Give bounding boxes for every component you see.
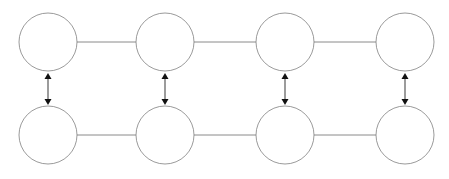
double-arrow-v-c4 bbox=[402, 73, 409, 105]
node-circle-n-r1-c2[interactable] bbox=[136, 13, 194, 71]
double-arrow-v-c3 bbox=[282, 73, 289, 105]
node-circle-n-r2-c1[interactable] bbox=[19, 106, 77, 164]
node-layer bbox=[19, 13, 434, 164]
arrow-head-down-icon bbox=[282, 99, 289, 105]
arrow-head-up-icon bbox=[162, 73, 169, 79]
arrow-head-down-icon bbox=[162, 99, 169, 105]
arrow-head-up-icon bbox=[402, 73, 409, 79]
node-circle-n-r1-c4[interactable] bbox=[376, 13, 434, 71]
node-circle-n-r2-c3[interactable] bbox=[256, 106, 314, 164]
double-arrow-v-c2 bbox=[162, 73, 169, 105]
double-arrow-v-c1 bbox=[45, 73, 52, 105]
vertical-edge-layer bbox=[45, 73, 409, 105]
arrow-head-down-icon bbox=[402, 99, 409, 105]
node-circle-n-r1-c1[interactable] bbox=[19, 13, 77, 71]
node-grid-diagram bbox=[0, 0, 449, 179]
node-circle-n-r2-c4[interactable] bbox=[376, 106, 434, 164]
node-circle-n-r2-c2[interactable] bbox=[136, 106, 194, 164]
arrow-head-up-icon bbox=[45, 73, 52, 79]
node-circle-n-r1-c3[interactable] bbox=[256, 13, 314, 71]
arrow-head-up-icon bbox=[282, 73, 289, 79]
horizontal-edge-layer bbox=[77, 42, 376, 135]
diagram-canvas bbox=[0, 0, 449, 179]
arrow-head-down-icon bbox=[45, 99, 52, 105]
